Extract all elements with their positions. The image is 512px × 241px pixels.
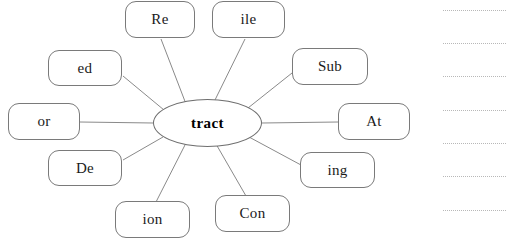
node-box-at[interactable]: At xyxy=(338,103,410,140)
node-box-sub[interactable]: Sub xyxy=(292,48,368,85)
node-box-ile[interactable]: ile xyxy=(212,1,285,38)
spoke-line-3 xyxy=(248,73,292,108)
node-label: Sub xyxy=(318,59,342,74)
node-label: ed xyxy=(78,61,93,76)
worksheet-page: ReileedSuborAtDeingionCon tract xyxy=(0,0,512,241)
spoke-line-2 xyxy=(123,76,164,110)
answer-line-4[interactable] xyxy=(443,110,506,111)
node-label: ile xyxy=(241,12,257,27)
answer-line-2[interactable] xyxy=(443,43,506,44)
node-label: ing xyxy=(327,163,347,178)
answer-line-1[interactable] xyxy=(443,10,506,11)
spoke-line-7 xyxy=(249,137,301,165)
node-label: ion xyxy=(142,212,162,227)
node-label: Re xyxy=(151,12,168,27)
center-node-root-word[interactable]: tract xyxy=(153,99,262,147)
node-box-ing[interactable]: ing xyxy=(300,152,375,188)
spoke-line-1 xyxy=(214,39,245,102)
center-node-label: tract xyxy=(191,115,224,132)
spoke-line-4 xyxy=(80,122,153,123)
answer-line-3[interactable] xyxy=(443,76,506,77)
spoke-line-8 xyxy=(156,143,186,202)
spoke-line-5 xyxy=(262,122,338,123)
spoke-line-6 xyxy=(123,137,163,160)
node-box-con[interactable]: Con xyxy=(215,195,290,232)
spoke-line-0 xyxy=(161,39,186,104)
node-box-ion[interactable]: ion xyxy=(115,201,190,238)
answer-line-5[interactable] xyxy=(443,143,506,144)
node-label: De xyxy=(76,161,94,176)
node-box-re[interactable]: Re xyxy=(125,1,195,38)
node-box-or[interactable]: or xyxy=(8,103,80,140)
node-box-ed[interactable]: ed xyxy=(48,50,122,86)
node-label: At xyxy=(366,114,382,129)
node-label: Con xyxy=(240,206,266,221)
node-label: or xyxy=(37,114,50,129)
answer-line-6[interactable] xyxy=(443,176,506,177)
answer-line-7[interactable] xyxy=(443,210,506,211)
spoke-line-9 xyxy=(216,144,246,196)
node-box-de[interactable]: De xyxy=(48,150,122,186)
